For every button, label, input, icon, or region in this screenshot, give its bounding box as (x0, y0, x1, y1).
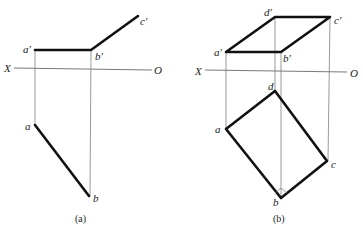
label-a-prime: a′ (23, 43, 32, 55)
figure-a: X O a′ b′ c′ a b (a) (3, 15, 162, 225)
label-a: a (25, 120, 31, 132)
label-b-prime-b: b′ (283, 52, 292, 64)
figure-b: X O a′ b′ c′ d′ a b c d (b) (194, 6, 358, 225)
front-view-parallelogram (226, 17, 330, 52)
projection-diagram: X O a′ b′ c′ a b (a) X O a′ b′ c′ d′ (0, 0, 363, 230)
axis-o-label-a: O (154, 64, 162, 76)
axis-x-label-a: X (3, 62, 12, 74)
projector-b (90, 50, 91, 196)
label-c-b: c (331, 158, 336, 170)
label-b-prime: b′ (95, 50, 104, 62)
label-a-b: a (215, 123, 221, 135)
label-c-prime-b: c′ (334, 14, 342, 26)
label-d-prime-b: d′ (264, 6, 273, 18)
label-b: b (93, 192, 99, 204)
label-b-b: b (273, 196, 279, 208)
label-c-prime: c′ (140, 15, 148, 27)
top-view-rectangle (226, 91, 327, 198)
label-d-b: d (268, 80, 274, 92)
caption-a: (a) (75, 213, 86, 225)
axis-o-label-b: O (350, 67, 358, 79)
top-view-line-ab (35, 125, 89, 196)
front-view-line-abc (35, 16, 138, 50)
projector-c-b (328, 17, 330, 161)
axis-x-label-b: X (194, 65, 203, 77)
caption-b: (b) (273, 213, 285, 225)
label-a-prime-b: a′ (214, 46, 223, 58)
